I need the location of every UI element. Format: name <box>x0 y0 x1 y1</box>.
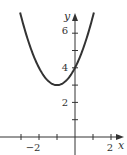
y-axis <box>72 13 78 155</box>
parabola-curve <box>20 12 94 85</box>
y-tick-label-2: 2 <box>62 97 68 108</box>
parabola-chart: −2 2 2 4 6 x y <box>0 0 127 155</box>
x-axis <box>0 134 124 140</box>
y-axis-arrow-icon <box>72 13 78 21</box>
x-tick-label-neg2: −2 <box>26 142 41 153</box>
y-axis-label: y <box>63 10 71 23</box>
y-tick-label-4: 4 <box>62 62 68 73</box>
y-tick-label-6: 6 <box>62 25 68 36</box>
x-tick-label-2: 2 <box>107 142 113 153</box>
x-axis-label: x <box>118 139 125 152</box>
